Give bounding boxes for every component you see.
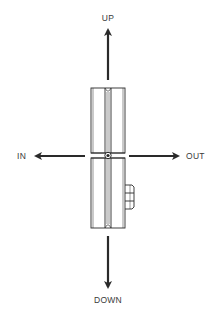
label-down: DOWN bbox=[94, 295, 122, 305]
label-out: OUT bbox=[186, 151, 205, 161]
center-joint bbox=[91, 152, 125, 158]
direction-diagram: UP DOWN IN OUT bbox=[0, 0, 214, 317]
slide-assembly bbox=[91, 88, 134, 228]
upper-section bbox=[91, 88, 125, 153]
label-up: UP bbox=[102, 13, 114, 23]
lower-section bbox=[91, 158, 125, 228]
side-clip bbox=[125, 185, 134, 209]
label-in: IN bbox=[17, 151, 26, 161]
